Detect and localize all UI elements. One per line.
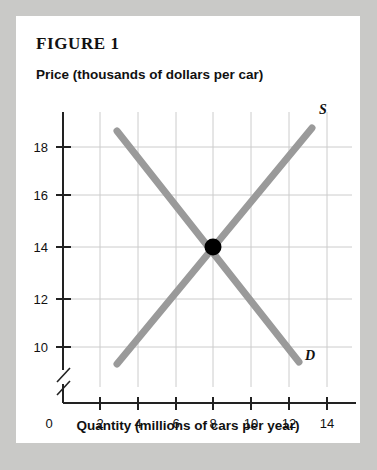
supply-demand-chart: 18 16 14 12 10 0 2 4 6 8 10 12 14 S D [16,16,360,443]
supply-curve-label: S [319,102,327,117]
y-tick-label-14: 14 [34,240,48,255]
equilibrium-point [205,239,222,256]
y-tick-label-18: 18 [34,140,48,155]
y-tick-label-10: 10 [34,340,48,355]
y-tick-label-16: 16 [34,188,48,203]
figure-card: FIGURE 1 Price (thousands of dollars per… [16,16,360,443]
x-axis-title: Quantity (millions of cars per year) [16,418,360,433]
demand-curve-label: D [304,348,315,363]
y-tick-label-12: 12 [34,292,48,307]
